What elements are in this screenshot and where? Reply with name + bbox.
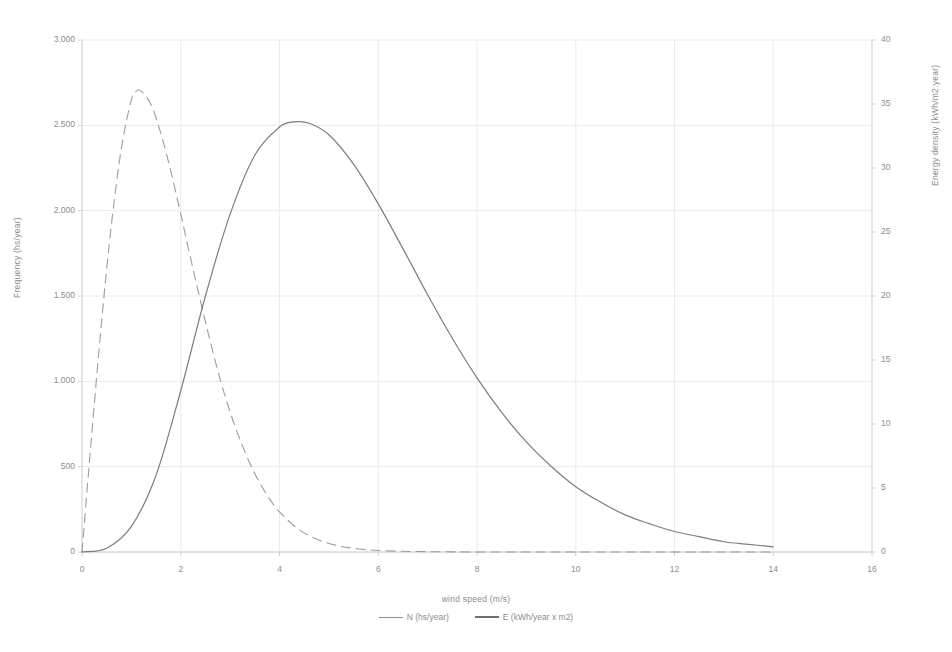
chart-plot-area — [0, 0, 952, 652]
gridlines — [82, 40, 872, 552]
x-tick-1: 2 — [161, 564, 201, 574]
series-line-e — [82, 121, 773, 552]
wind-speed-chart: Frequency (hs/year) Energy density (kWh/… — [0, 0, 952, 652]
y-right-tick-5: 25 — [881, 226, 927, 236]
x-tick-2: 4 — [260, 564, 300, 574]
y-right-tick-8: 40 — [881, 34, 927, 44]
y-right-tick-1: 5 — [881, 482, 927, 492]
legend-label-e: E (kWh/year x m2) — [503, 612, 573, 622]
y-left-tick-2: 1.000 — [29, 375, 75, 385]
y-axis-right-title: Energy density (kWh/m2.year) — [930, 65, 940, 186]
y-left-tick-3: 1.500 — [29, 290, 75, 300]
x-tick-4: 8 — [457, 564, 497, 574]
x-axis-title: wind speed (m/s) — [0, 594, 952, 604]
y-left-tick-1: 500 — [29, 461, 75, 471]
x-tick-3: 6 — [358, 564, 398, 574]
y-right-tick-0: 0 — [881, 546, 927, 556]
x-tick-6: 12 — [655, 564, 695, 574]
y-right-tick-4: 20 — [881, 290, 927, 300]
series-line-n — [82, 90, 773, 552]
x-tick-5: 10 — [556, 564, 596, 574]
x-tick-0: 0 — [62, 564, 102, 574]
legend-swatch-e-icon — [475, 616, 499, 618]
legend-item-n[interactable]: N (hs/year) — [379, 612, 449, 622]
y-right-tick-2: 10 — [881, 418, 927, 428]
legend-swatch-n-icon — [379, 617, 403, 618]
y-left-tick-4: 2.000 — [29, 205, 75, 215]
y-axis-left-title: Frequency (hs/year) — [12, 217, 22, 298]
y-left-tick-5: 2.500 — [29, 119, 75, 129]
legend-item-e[interactable]: E (kWh/year x m2) — [475, 612, 573, 622]
y-left-tick-0: 0 — [29, 546, 75, 556]
y-left-tick-6: 3.000 — [29, 34, 75, 44]
chart-legend: N (hs/year) E (kWh/year x m2) — [0, 612, 952, 622]
y-right-tick-7: 35 — [881, 98, 927, 108]
x-tick-7: 14 — [753, 564, 793, 574]
legend-label-n: N (hs/year) — [407, 612, 449, 622]
y-right-tick-6: 30 — [881, 162, 927, 172]
x-tick-8: 16 — [852, 564, 892, 574]
y-right-tick-3: 15 — [881, 354, 927, 364]
